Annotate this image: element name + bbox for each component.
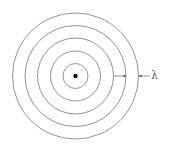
wavefront-diagram <box>0 0 172 150</box>
outer-arrowhead <box>139 75 142 78</box>
wavelength-marker <box>114 75 151 78</box>
wavelength-label: λ <box>151 69 158 83</box>
point-source-dot <box>73 74 77 78</box>
